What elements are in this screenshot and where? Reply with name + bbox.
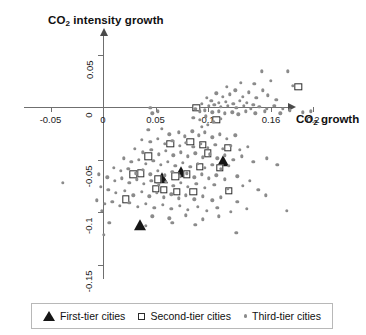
third-tier-point [276,163,279,166]
third-tier-point [275,98,278,101]
third-tier-point [177,130,180,133]
third-tier-point [255,96,258,99]
x-tick-mark [271,107,272,112]
third-tier-point [237,113,240,116]
third-tier-point [97,172,100,175]
third-tier-point [161,203,164,206]
third-tier-point [236,200,239,203]
third-tier-point [249,107,252,110]
chart-figure: CO2 intensity growth CO2 growth -0.0500.… [0,0,366,335]
third-tier-point [149,106,152,109]
third-tier-point [200,172,203,175]
second-tier-point [160,186,167,193]
legend-item-1[interactable]: First-tier cities [43,310,125,322]
third-tier-point [246,145,249,148]
third-tier-point [167,133,170,136]
third-tier-point [128,181,131,184]
third-tier-point [147,195,150,198]
third-tier-point [210,163,213,166]
third-tier-point [181,161,184,164]
third-tier-point [218,133,221,136]
third-tier-point [149,172,152,175]
third-tier-point [193,198,196,201]
third-tier-point [207,177,210,180]
third-tier-point [215,174,218,177]
y-tick-mark [98,265,103,266]
third-tier-point [213,183,216,186]
third-tier-point [192,116,195,119]
third-tier-point [229,144,232,147]
third-tier-point [235,231,238,234]
third-tier-point [114,191,117,194]
third-tier-point [144,162,147,165]
y-tick-label: -0.15 [83,270,94,292]
third-tier-point [122,157,125,160]
third-tier-point [210,136,213,139]
y-tick-mark [98,55,103,56]
third-tier-point [159,163,162,166]
third-tier-point [156,109,159,112]
x-tick-mark [313,107,314,112]
third-tier-point [178,204,181,207]
third-tier-point [128,201,131,204]
third-tier-point [178,175,181,178]
third-tier-point [191,129,194,132]
third-tier-point [184,213,187,216]
third-tier-point [258,105,261,108]
third-tier-point [245,207,248,210]
third-tier-point [288,108,291,111]
legend-item-2[interactable]: Second-tier cities [138,310,231,322]
legend-item-3[interactable]: Third-tier cities [244,310,321,322]
third-tier-point [263,109,266,112]
x-tick-label: -0.05 [40,114,62,125]
third-tier-point [216,206,219,209]
third-tier-point [309,109,312,112]
third-tier-point [248,179,251,182]
open-square-icon [138,313,145,320]
y-tick-label: -0.05 [83,165,94,187]
x-tick-label: 0 [100,114,105,125]
third-tier-point [201,195,204,198]
third-tier-point [197,134,200,137]
y-tick-mark [98,160,103,161]
third-tier-point [227,164,230,167]
third-tier-point [184,193,187,196]
third-tier-point [203,186,206,189]
third-tier-point [269,79,272,82]
gray-dot-icon [244,314,247,317]
third-tier-point [260,70,263,73]
third-tier-point [245,101,248,104]
legend-item-label: Second-tier cities [150,310,231,322]
x-tick-label: 0.05 [146,114,165,125]
second-tier-point [144,153,151,160]
third-tier-point [130,160,133,163]
third-tier-point [179,150,182,153]
third-tier-point [214,143,217,146]
third-tier-point [281,107,284,110]
third-tier-point [205,209,208,212]
third-tier-point [217,214,220,217]
third-tier-point [241,184,244,187]
x-tick-mark [51,107,52,112]
third-tier-point [186,155,189,158]
third-tier-point [265,157,268,160]
third-tier-point [225,137,228,140]
third-tier-point [235,106,238,109]
third-tier-point [164,149,167,152]
third-tier-point [238,148,241,151]
third-tier-point [266,94,269,97]
y-tick-label: 0.05 [83,60,94,79]
third-tier-point [286,70,289,73]
third-tier-point [236,175,239,178]
third-tier-point [162,196,165,199]
third-tier-point [254,112,257,115]
third-tier-point [215,92,218,95]
third-tier-point [170,207,173,210]
third-tier-point [264,193,267,196]
third-tier-point [221,95,224,98]
third-tier-point [195,182,198,185]
third-tier-point [301,111,304,114]
third-tier-point [230,111,233,114]
third-tier-point [252,82,255,85]
third-tier-point [152,159,155,162]
